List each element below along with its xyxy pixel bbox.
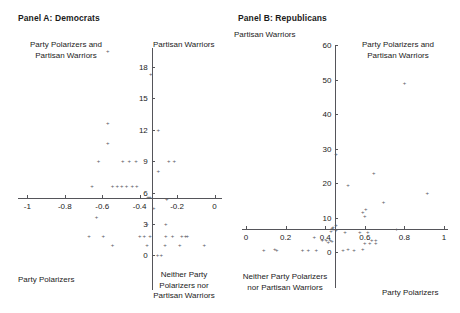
scatter-point xyxy=(172,159,176,163)
scatter-point xyxy=(343,230,347,234)
y-tick-label: 0 xyxy=(309,248,331,257)
scatter-point xyxy=(142,234,146,238)
scatter-point xyxy=(178,243,182,247)
y-tick xyxy=(152,193,155,194)
scatter-point xyxy=(364,207,368,211)
scatter-point xyxy=(372,171,376,175)
y-tick-label: 20 xyxy=(309,179,331,188)
panel-a-label-bottom-left: Party Polarizers xyxy=(18,275,128,286)
scatter-point xyxy=(121,159,125,163)
x-axis-line xyxy=(18,198,222,199)
y-tick xyxy=(152,130,155,131)
scatter-point xyxy=(361,247,365,251)
scatter-point xyxy=(120,184,124,188)
y-tick-label: 3 xyxy=(126,220,148,229)
y-tick xyxy=(335,149,338,150)
x-tick xyxy=(325,226,326,229)
x-tick-label: 0 xyxy=(244,233,248,242)
scatter-point xyxy=(346,183,350,187)
y-tick-label: 60 xyxy=(309,41,331,50)
scatter-point xyxy=(180,234,184,238)
x-tick-label: 0 xyxy=(212,202,216,211)
scatter-point xyxy=(156,169,160,173)
x-tick xyxy=(65,195,66,198)
scatter-point xyxy=(167,159,171,163)
panel-a-label-top-left: Party Polarizers and Partisan Warriors xyxy=(6,40,126,61)
scatter-point xyxy=(111,184,115,188)
x-tick xyxy=(404,226,405,229)
y-tick-label: 30 xyxy=(309,144,331,153)
scatter-point xyxy=(402,81,406,85)
scatter-point xyxy=(262,248,266,252)
y-tick-label: 0 xyxy=(126,251,148,260)
x-tick-label: -0.6 xyxy=(95,202,109,211)
scatter-point xyxy=(170,234,174,238)
panel-b-republicans: Panel B: Republicans 00.20.40.60.8101020… xyxy=(230,0,460,313)
scatter-point xyxy=(159,253,163,257)
y-tick-label: 6 xyxy=(126,188,148,197)
panel-b-label-bottom-left: Neither Party Polarizers nor Partisan Wa… xyxy=(230,272,340,293)
scatter-point xyxy=(374,238,378,242)
scatter-point xyxy=(363,241,367,245)
y-tick xyxy=(335,183,338,184)
y-tick xyxy=(152,255,155,256)
scatter-point xyxy=(361,210,365,214)
x-tick-label: 0.2 xyxy=(280,233,291,242)
scatter-point xyxy=(163,243,167,247)
y-tick xyxy=(335,80,338,81)
x-tick-label: -0.8 xyxy=(58,202,72,211)
panel-b-label-top-right: Party Polarizers and Partisan Warriors xyxy=(340,40,456,61)
scatter-point xyxy=(138,234,142,238)
y-tick xyxy=(152,98,155,99)
x-tick xyxy=(286,226,287,229)
y-tick-label: 18 xyxy=(126,62,148,71)
scatter-point xyxy=(95,215,99,219)
scatter-point xyxy=(352,248,356,252)
scatter-point xyxy=(300,248,304,252)
y-tick-label: 10 xyxy=(309,213,331,222)
x-tick-label: 1 xyxy=(442,233,446,242)
x-tick-label: 0.8 xyxy=(399,233,410,242)
panel-a-democrats: Panel A: Democrats -1-0.8-0.6-0.4-0.2003… xyxy=(0,0,230,313)
y-tick xyxy=(152,224,155,225)
scatter-point xyxy=(145,243,149,247)
x-tick xyxy=(177,195,178,198)
scatter-point xyxy=(164,234,168,238)
panel-a-label-top-right: Partisan Warriors xyxy=(153,40,228,51)
scatter-point xyxy=(374,241,378,245)
panel-b-label-top-left: Partisan Warriors xyxy=(234,30,316,41)
scatter-point xyxy=(156,128,160,132)
y-tick-label: 15 xyxy=(126,94,148,103)
x-tick xyxy=(246,226,247,229)
scatter-point xyxy=(164,222,168,226)
scatter-point xyxy=(368,241,372,245)
scatter-point xyxy=(106,141,110,145)
scatter-point xyxy=(111,243,115,247)
scatter-point xyxy=(425,191,429,195)
y-tick xyxy=(335,45,338,46)
x-tick-label: 0.6 xyxy=(359,233,370,242)
y-tick-label: 50 xyxy=(309,75,331,84)
x-tick-label: -0.4 xyxy=(133,202,147,211)
x-axis-line xyxy=(242,229,448,230)
scatter-point xyxy=(90,184,94,188)
scatter-point xyxy=(382,200,386,204)
x-tick xyxy=(215,195,216,198)
scatter-point xyxy=(346,247,350,251)
scatter-point xyxy=(341,248,345,252)
scatter-point xyxy=(106,121,110,125)
y-tick xyxy=(152,161,155,162)
y-tick xyxy=(335,252,338,253)
scatter-point xyxy=(273,247,277,251)
panel-a-label-bottom-right: Neither Party Polarizers nor Partisan Wa… xyxy=(140,270,228,302)
y-tick xyxy=(335,114,338,115)
x-tick xyxy=(102,195,103,198)
scatter-point xyxy=(202,243,206,247)
scatter-point xyxy=(184,234,188,238)
x-tick-label: -0.2 xyxy=(170,202,184,211)
x-tick-label: -1 xyxy=(24,202,31,211)
y-tick-label: 40 xyxy=(309,110,331,119)
scatter-point xyxy=(96,159,100,163)
scatter-point xyxy=(155,253,159,257)
x-tick xyxy=(365,226,366,229)
